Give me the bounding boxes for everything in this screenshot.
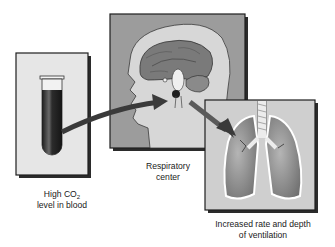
label-ventilation: Increased rate and depth of ventilation — [196, 219, 330, 240]
label-respiratory-line1: Respiratory — [128, 161, 208, 172]
lungs-panel — [205, 100, 318, 213]
label-blood-line2: level in blood — [22, 200, 102, 211]
label-blood-co-text: High CO — [44, 189, 77, 199]
blood-panel — [16, 53, 91, 178]
label-ventilation-line2: of ventilation — [196, 230, 330, 241]
label-blood: High CO2 level in blood — [22, 189, 102, 210]
label-ventilation-line1: Increased rate and depth — [196, 219, 330, 230]
test-tube-icon — [40, 76, 64, 155]
label-blood-line1: High CO2 — [22, 189, 102, 200]
label-respiratory-center: Respiratory center — [128, 161, 208, 182]
label-respiratory-line2: center — [128, 172, 208, 183]
